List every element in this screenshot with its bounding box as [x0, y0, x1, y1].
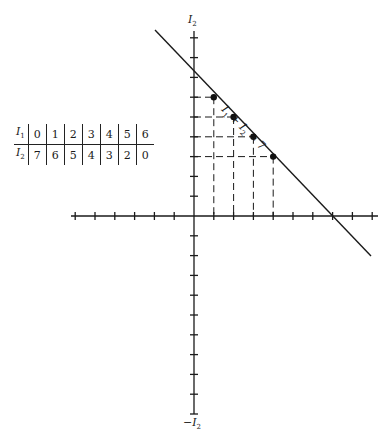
values-table: I1 0 1 2 3 4 5 6 I2 7 6 5 4 3 2 0: [14, 124, 154, 165]
axis-ticks: [75, 38, 372, 414]
table-row-i2: I2 7 6 5 4 3 2 0: [14, 145, 154, 166]
table-cell: 0: [136, 145, 154, 166]
row-label-i1: I1: [14, 124, 28, 145]
table-cell: 3: [82, 124, 100, 145]
table-cell: 2: [64, 124, 82, 145]
coordinate-diagram: [0, 0, 387, 442]
table-cell: 0: [28, 124, 46, 145]
y-axis-label-bottom: −I2: [183, 416, 201, 431]
table-cell: 3: [100, 145, 118, 166]
table-cell: 4: [100, 124, 118, 145]
row-label-i2: I2: [14, 145, 28, 166]
table-cell: 6: [46, 145, 64, 166]
table-cell: 4: [82, 145, 100, 166]
table-cell: 5: [118, 124, 136, 145]
table-cell: 1: [46, 124, 64, 145]
table-cell: 2: [118, 145, 136, 166]
data-point: [270, 153, 276, 159]
data-point: [211, 94, 217, 100]
table-cell: 6: [136, 124, 154, 145]
axes: [71, 31, 378, 414]
table-cell: 5: [64, 145, 82, 166]
y-axis-label-top: I2: [188, 13, 197, 28]
table-row-i1: I1 0 1 2 3 4 5 6: [14, 124, 154, 145]
table-cell: 7: [28, 145, 46, 166]
